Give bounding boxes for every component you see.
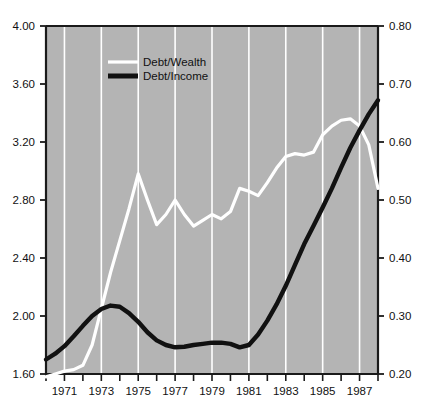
x-tick-label-1981: 1981 xyxy=(236,385,262,397)
x-tick-label-1971: 1971 xyxy=(52,385,78,397)
left-tick-label: 4.00 xyxy=(13,20,35,32)
left-tick-label: 3.20 xyxy=(13,136,35,148)
x-tick-label-1983: 1983 xyxy=(273,385,299,397)
right-axis-tick-labels: 0.200.300.400.500.600.700.80 xyxy=(389,20,411,380)
x-tick-label-1987: 1987 xyxy=(347,385,373,397)
left-tick-label: 2.80 xyxy=(13,194,35,206)
right-tick-label: 0.50 xyxy=(389,194,411,206)
x-tick-label-1979: 1979 xyxy=(199,385,225,397)
right-axis xyxy=(378,26,384,374)
x-tick-label-1985: 1985 xyxy=(310,385,336,397)
left-axis xyxy=(40,26,46,374)
debt-ratios-line-chart: 1.602.002.402.803.203.604.00 0.200.300.4… xyxy=(0,0,428,419)
legend-label-debt-income: Debt/Income xyxy=(143,70,208,82)
left-axis-tick-labels: 1.602.002.402.803.203.604.00 xyxy=(13,20,35,380)
right-tick-label: 0.40 xyxy=(389,252,411,264)
right-tick-label: 0.60 xyxy=(389,136,411,148)
x-axis-tick-labels: 197119731975197719791981198319851987 xyxy=(52,385,373,397)
right-tick-label: 0.80 xyxy=(389,20,411,32)
right-tick-label: 0.20 xyxy=(389,368,411,380)
left-tick-label: 1.60 xyxy=(13,368,35,380)
chart-container: 1.602.002.402.803.203.604.00 0.200.300.4… xyxy=(0,0,428,419)
x-tick-label-1977: 1977 xyxy=(162,385,188,397)
x-tick-label-1975: 1975 xyxy=(125,385,151,397)
x-tick-label-1973: 1973 xyxy=(89,385,115,397)
left-tick-label: 2.00 xyxy=(13,310,35,322)
right-tick-label: 0.30 xyxy=(389,310,411,322)
legend-label-debt-wealth: Debt/Wealth xyxy=(143,56,206,68)
bottom-axis xyxy=(46,374,378,381)
left-tick-label: 2.40 xyxy=(13,252,35,264)
left-tick-label: 3.60 xyxy=(13,78,35,90)
right-tick-label: 0.70 xyxy=(389,78,411,90)
